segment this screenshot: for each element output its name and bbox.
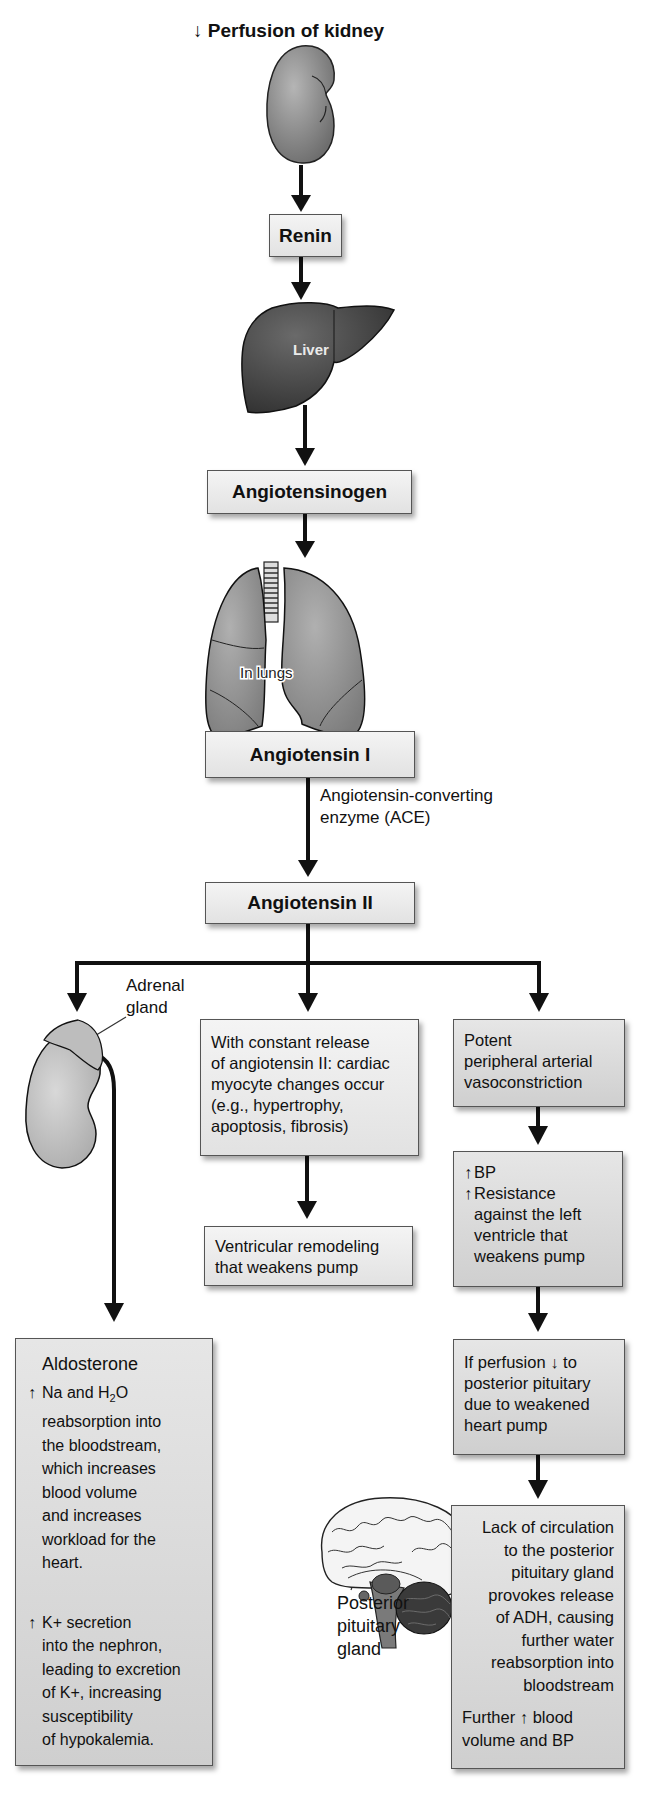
vaso-line: Potent (464, 1030, 614, 1051)
adrenal-kidney-icon (22, 1010, 122, 1180)
lungs-label: In lungs (240, 664, 293, 681)
potassium-line: of K+, increasing (28, 1681, 204, 1705)
pituitary-label-line: gland (337, 1638, 409, 1661)
adh-line: pituitary gland (462, 1561, 614, 1584)
potassium-line: susceptibility (28, 1705, 204, 1729)
cardiac-line: of angiotensin II: cardiac (211, 1053, 408, 1074)
adh-line: reabsorption into (462, 1651, 614, 1674)
sodium-line: the bloodstream, (28, 1434, 204, 1458)
cardiac-myocyte-box: With constant release of angiotensin II:… (200, 1019, 419, 1156)
down-arrow-icon: ↓ (193, 20, 203, 41)
lungs-icon: In lungs (202, 560, 402, 746)
adh-line: provokes release (462, 1584, 614, 1607)
aldosterone-heading: Aldosterone (28, 1353, 204, 1377)
remodeling-line: Ventricular remodeling (215, 1236, 402, 1257)
k-text: K+ secretion (42, 1614, 131, 1631)
sodium-line: blood volume (28, 1481, 204, 1505)
pituitary-label-line: pituitary (337, 1615, 409, 1638)
blood-pressure-box: ↑BP ↑Resistance against the left ventric… (453, 1151, 623, 1287)
up-arrow-icon: ↑ (464, 1183, 474, 1204)
ace-label-line-2: enzyme (ACE) (320, 807, 493, 829)
potassium-line: into the nephron, (28, 1634, 204, 1658)
adh-release-box: Lack of circulation to the posterior pit… (451, 1505, 625, 1769)
angiotensin-2-label: Angiotensin II (247, 892, 373, 914)
sodium-line: and increases (28, 1504, 204, 1528)
vaso-line: peripheral arterial (464, 1051, 614, 1072)
bp-line: ventricle that (464, 1225, 612, 1246)
volume-bp-text: volume and BP (462, 1729, 614, 1752)
adh-line: further water (462, 1629, 614, 1652)
perfusion-box: If perfusion ↓ to posterior pituitary du… (453, 1339, 625, 1455)
adh-line: of ADH, causing (462, 1606, 614, 1629)
ace-label-line-1: Angiotensin-converting (320, 785, 493, 807)
renin-label: Renin (279, 225, 332, 247)
liver-icon: Liver (238, 300, 398, 420)
perfusion-line: heart pump (464, 1415, 614, 1436)
adh-line: Lack of circulation (462, 1516, 614, 1539)
ace-label: Angiotensin-converting enzyme (ACE) (320, 785, 493, 829)
angiotensin-2-box: Angiotensin II (205, 882, 415, 924)
up-arrow-icon: ↑ (520, 1708, 528, 1726)
up-arrow-icon: ↑ (464, 1162, 474, 1183)
kidney-icon (262, 42, 352, 168)
angiotensinogen-label: Angiotensinogen (232, 481, 387, 503)
sodium-effect: ↑Na and H2O reabsorption into the bloods… (28, 1381, 204, 1575)
adrenal-gland-label: Adrenal gland (126, 975, 185, 1019)
sodium-line: which increases (28, 1457, 204, 1481)
adh-line: bloodstream (462, 1674, 614, 1697)
perfusion-line: posterior pituitary (464, 1373, 614, 1394)
further-effect: Further ↑ blood (462, 1706, 614, 1729)
ventricular-remodeling-box: Ventricular remodeling that weakens pump (204, 1226, 413, 1286)
adrenal-label-line-2: gland (126, 997, 185, 1019)
down-arrow-icon: ↓ (550, 1353, 558, 1371)
vaso-line: vasoconstriction (464, 1072, 614, 1093)
posterior-pituitary-label: Posterior pituitary gland (337, 1592, 409, 1661)
potassium-line: leading to excretion (28, 1658, 204, 1682)
angiotensin-1-label: Angiotensin I (250, 744, 370, 766)
aldosterone-box: Aldosterone ↑Na and H2O reabsorption int… (15, 1338, 213, 1766)
cardiac-line: With constant release (211, 1032, 408, 1053)
perfusion-to: to (563, 1353, 577, 1371)
h2o-o: O (116, 1384, 128, 1401)
potassium-effect: ↑K+ secretion into the nephron, leading … (28, 1611, 204, 1752)
resistance-text: Resistance (474, 1184, 556, 1202)
remodeling-line: that weakens pump (215, 1257, 402, 1278)
cardiac-line: apoptosis, fibrosis) (211, 1116, 408, 1137)
sodium-line: heart. (28, 1551, 204, 1575)
liver-label: Liver (293, 341, 329, 358)
title-text: Perfusion of kidney (208, 20, 384, 41)
pituitary-label-line: Posterior (337, 1592, 409, 1615)
vasoconstriction-box: Potent peripheral arterial vasoconstrict… (453, 1019, 625, 1107)
up-arrow-icon: ↑ (28, 1611, 42, 1635)
perfusion-text: If perfusion (464, 1353, 546, 1371)
potassium-line: of hypokalemia. (28, 1728, 204, 1752)
angiotensin-1-box: Angiotensin I (205, 731, 415, 778)
angiotensinogen-box: Angiotensinogen (207, 470, 412, 514)
bp-text: BP (474, 1163, 496, 1181)
renin-box: Renin (269, 214, 342, 257)
up-arrow-icon: ↑ (28, 1381, 42, 1405)
perfusion-line: due to weakened (464, 1394, 614, 1415)
bp-line: against the left (464, 1204, 612, 1225)
adrenal-label-line-1: Adrenal (126, 975, 185, 997)
further-text: Further (462, 1708, 515, 1726)
na-text: Na and H (42, 1384, 110, 1401)
sodium-line: reabsorption into (28, 1410, 204, 1434)
bp-line: weakens pump (464, 1246, 612, 1267)
diagram-title: ↓ Perfusion of kidney (193, 20, 384, 42)
blood-text: blood (533, 1708, 573, 1726)
adh-line: to the posterior (462, 1539, 614, 1562)
cardiac-line: myocyte changes occur (211, 1074, 408, 1095)
sodium-line: workload for the (28, 1528, 204, 1552)
cardiac-line: (e.g., hypertrophy, (211, 1095, 408, 1116)
